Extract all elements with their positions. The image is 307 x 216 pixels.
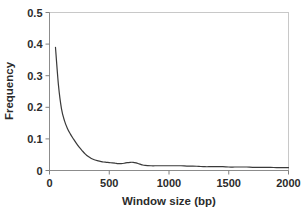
x-tick-label: 2000 [276,177,300,189]
x-tick-label: 500 [100,177,118,189]
y-tick-label: 0.5 [27,7,42,19]
x-tick-label: 1500 [217,177,241,189]
x-tick-label: 1000 [157,177,181,189]
frequency-vs-window-size-line-chart: 00.10.20.30.40.5 0500100015002000 Window… [0,0,307,216]
y-tick-label: 0 [36,165,42,177]
chart-container: 00.10.20.30.40.5 0500100015002000 Window… [0,0,307,216]
y-axis-title: Frequency [3,61,15,120]
x-tick-label: 0 [46,177,52,189]
y-tick-label: 0.2 [27,101,42,113]
x-axis-title: Window size (bp) [122,195,216,207]
y-tick-label: 0.4 [27,38,43,50]
y-tick-label: 0.1 [27,133,42,145]
y-tick-label: 0.3 [27,70,42,82]
